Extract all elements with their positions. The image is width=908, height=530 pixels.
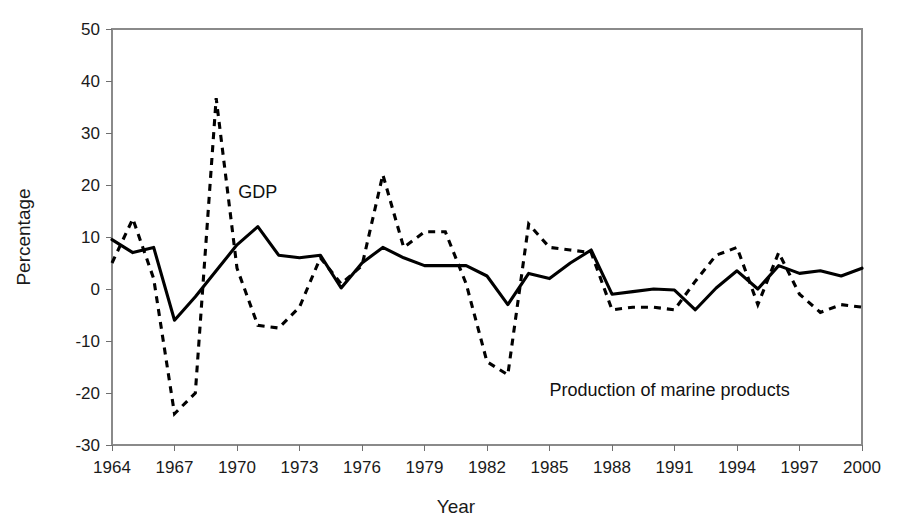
y-tick-label: 40 — [81, 72, 100, 91]
x-tick-label: 1982 — [468, 458, 506, 477]
x-tick-label: 1991 — [656, 458, 694, 477]
x-tick-label: 1964 — [93, 458, 131, 477]
series-annotation-gdp: GDP — [238, 182, 277, 202]
x-tick-label: 2000 — [843, 458, 881, 477]
x-tick-label: 1967 — [156, 458, 194, 477]
y-tick-label: -10 — [75, 332, 100, 351]
x-tick-label: 1988 — [593, 458, 631, 477]
series-annotation-production: Production of marine products — [550, 380, 790, 400]
y-axis-title: Percentage — [13, 188, 34, 285]
x-tick-label: 1985 — [531, 458, 569, 477]
y-tick-label: -30 — [75, 436, 100, 455]
x-tick-label: 1976 — [343, 458, 381, 477]
y-tick-label: 30 — [81, 124, 100, 143]
y-tick-label: 20 — [81, 176, 100, 195]
x-tick-label: 1994 — [718, 458, 756, 477]
x-tick-label: 1997 — [781, 458, 819, 477]
y-tick-label: 10 — [81, 228, 100, 247]
x-tick-label: 1970 — [218, 458, 256, 477]
y-tick-label: 50 — [81, 20, 100, 39]
chart-figure: 50403020100-10-20-30 1964196719701973197… — [0, 0, 908, 530]
x-tick-label: 1979 — [406, 458, 444, 477]
y-tick-label: -20 — [75, 384, 100, 403]
y-tick-label: 0 — [91, 280, 100, 299]
x-axis-title: Year — [437, 496, 476, 517]
x-tick-label: 1973 — [281, 458, 319, 477]
